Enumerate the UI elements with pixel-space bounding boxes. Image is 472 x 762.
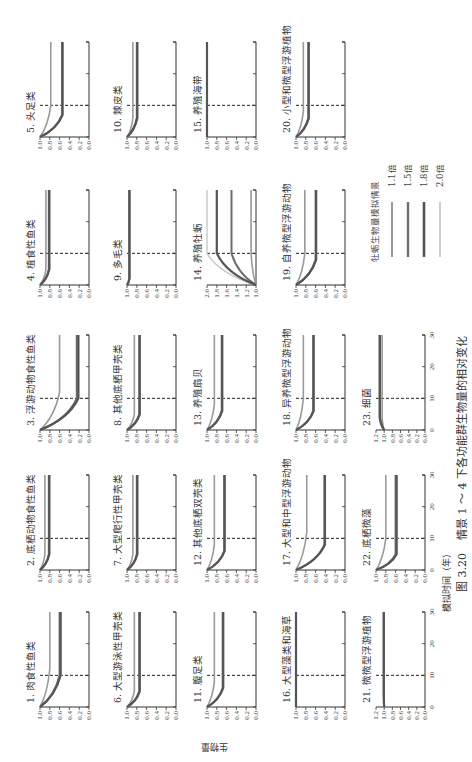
y-tick-label: 1.0: [203, 574, 211, 583]
y-tick-label: 0.4: [153, 289, 161, 298]
y-tick-label: 0.4: [322, 711, 330, 720]
y-tick-label: 0.0: [85, 711, 93, 720]
series-line-1.8倍: [217, 190, 256, 285]
series-line-1.5倍: [40, 335, 77, 430]
panel-title: 7. 大型爬行性甲壳类: [112, 474, 123, 566]
y-tick-label: 0.2: [243, 141, 251, 150]
x-tick-label: 30: [428, 608, 436, 616]
y-tick-label: 1.0: [372, 574, 380, 583]
y-tick-label: 1.0: [123, 434, 131, 443]
panel-23: 23. 细菌1.21.00.80.60.40.20.00102030: [361, 331, 436, 443]
panel-13: 13. 养殖扇贝1.00.80.60.40.20.0: [192, 335, 260, 443]
y-tick-label: 0.4: [322, 141, 330, 150]
series-line-1.1倍: [296, 335, 303, 430]
y-tick-label: 0.6: [223, 574, 231, 583]
y-tick-label: 1.0: [36, 574, 44, 583]
series-line-1.5倍: [296, 475, 324, 570]
y-tick-label: 0.0: [85, 141, 93, 150]
y-tick-label: 1.0: [292, 434, 300, 443]
legend-label: 1.1倍: [387, 164, 397, 187]
x-tick-label: 30: [428, 331, 436, 339]
y-tick-label: 0.8: [389, 434, 397, 443]
panel-20: 20. 小型和微型浮游植物1.00.80.60.40.20.0: [281, 25, 349, 150]
y-tick-label: 0.0: [341, 574, 349, 583]
y-tick-label: 0.2: [76, 711, 84, 720]
legend-label: 2.0倍: [435, 164, 445, 187]
x-tick-label: 0: [428, 568, 436, 572]
panel-title: 16. 大型藻类和海草: [281, 615, 292, 703]
y-tick-label: 0.8: [302, 711, 310, 720]
panel-title: 1. 肉食性鱼类: [25, 641, 36, 703]
series-line-1.1倍: [127, 42, 133, 137]
x-tick-label: 10: [428, 671, 436, 679]
panel-title: 23. 细菌: [361, 388, 372, 426]
x-tick-label: 10: [428, 394, 436, 402]
y-tick-label: 0.2: [243, 574, 251, 583]
y-tick-label: 1.0: [123, 141, 131, 150]
y-tick-label: 1.4: [233, 289, 241, 298]
y-tick-label: 0.4: [233, 711, 241, 720]
y-tick-label: 1.2: [372, 434, 380, 443]
y-tick-label: 0.2: [243, 711, 251, 720]
series-line-1.1倍: [382, 335, 384, 430]
y-tick-label: 1.0: [36, 434, 44, 443]
panel-22: 22. 底栖微藻1.00.80.60.40.20.00102030: [361, 471, 436, 583]
y-tick-label: 0.0: [341, 434, 349, 443]
y-tick-label: 0.8: [302, 289, 310, 298]
y-tick-label: 0.0: [172, 711, 180, 720]
panel-title: 3. 浮游动物食性鱼类: [25, 334, 36, 426]
y-tick-label: 0.8: [46, 574, 54, 583]
y-tick-label: 0.6: [312, 434, 320, 443]
y-tick-label: 0.4: [233, 574, 241, 583]
y-tick-label: 0.8: [133, 434, 141, 443]
legend-label: 1.8倍: [419, 164, 429, 187]
y-tick-label: 1.0: [252, 289, 260, 298]
y-tick-label: 0.8: [46, 711, 54, 720]
y-tick-label: 0.4: [66, 711, 74, 720]
series-line-1.8倍: [296, 190, 316, 285]
y-tick-label: 0.0: [252, 711, 260, 720]
y-tick-label: 0.8: [46, 141, 54, 150]
y-tick-label: 0.6: [143, 434, 151, 443]
panel-17: 17. 大型和中型浮游动物1.00.80.60.40.20.0: [281, 458, 349, 583]
y-tick-label: 0.2: [76, 289, 84, 298]
panel-1: 1. 肉食性鱼类1.00.80.60.40.20.0: [25, 612, 93, 720]
y-tick-label: 0.6: [312, 574, 320, 583]
y-tick-label: 0.6: [223, 711, 231, 720]
panel-5: 5. 头足类1.00.80.60.40.20.0: [25, 42, 93, 150]
series-line-1.1倍: [207, 335, 214, 430]
y-tick-label: 0.4: [402, 574, 410, 583]
caption-number: 图 3.20: [456, 553, 469, 592]
panel-title: 20. 小型和微型浮游植物: [281, 25, 292, 133]
series-line-1.1倍: [207, 612, 214, 707]
y-tick-label: 0.0: [172, 574, 180, 583]
y-tick-label: 0.6: [397, 434, 405, 443]
y-tick-label: 0.2: [332, 711, 340, 720]
legend-label: 1.5倍: [403, 164, 413, 187]
panel-title: 2. 底栖动物食性鱼类: [25, 474, 36, 566]
y-tick-label: 0.0: [172, 141, 180, 150]
y-tick-label: 0.8: [133, 574, 141, 583]
y-tick-label: 0.0: [341, 289, 349, 298]
y-tick-label: 0.6: [223, 141, 231, 150]
y-tick-label: 0.4: [322, 434, 330, 443]
y-tick-label: 0.6: [56, 711, 64, 720]
y-tick-label: 1.0: [123, 711, 131, 720]
x-axis-label: 模拟时间（年）: [441, 549, 452, 612]
y-tick-label: 0.6: [392, 574, 400, 583]
y-tick-label: 0.6: [397, 711, 405, 720]
y-tick-label: 2.0: [203, 289, 211, 298]
y-tick-label: 0.6: [143, 574, 151, 583]
y-tick-label: 0.8: [302, 141, 310, 150]
panel-6: 6. 大型游泳性甲壳类1.00.80.60.40.20.0: [112, 611, 180, 720]
y-tick-label: 1.2: [372, 711, 380, 720]
y-tick-label: 0.8: [46, 434, 54, 443]
y-tick-label: 1.0: [123, 289, 131, 298]
series-line-1.8倍: [296, 42, 309, 137]
y-tick-label: 0.4: [322, 574, 330, 583]
y-tick-label: 0.2: [332, 434, 340, 443]
panel-title: 21. 微微型浮游植物: [361, 615, 372, 703]
y-tick-label: 1.0: [380, 711, 388, 720]
y-tick-label: 0.4: [153, 574, 161, 583]
x-tick-label: 20: [428, 640, 436, 648]
